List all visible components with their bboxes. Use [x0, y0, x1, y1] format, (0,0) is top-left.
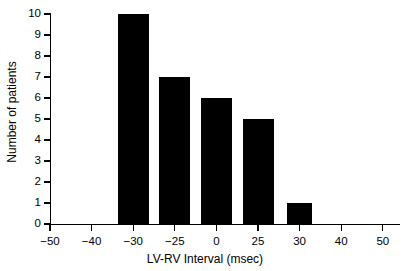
x-axis-title: LV-RV Interval (msec) — [0, 252, 410, 266]
bar — [159, 77, 190, 224]
x-tick-mark — [382, 225, 383, 231]
bar — [201, 98, 232, 224]
y-axis-title: Number of patients — [5, 37, 19, 187]
bar — [287, 203, 312, 224]
x-tick-mark — [49, 225, 50, 231]
x-tick-label: 40 — [335, 235, 348, 247]
bar — [243, 119, 274, 224]
x-tick-mark — [341, 225, 342, 231]
x-tick-label: −50 — [40, 235, 60, 247]
bar-chart-figure: Number of patients 012345678910 −50−40−3… — [0, 0, 410, 271]
x-tick-mark — [216, 225, 217, 231]
x-tick-mark — [174, 225, 175, 231]
x-tick-mark — [299, 225, 300, 231]
y-tick-label: 7 — [18, 71, 41, 83]
x-tick-mark — [257, 225, 258, 231]
y-tick-label: 9 — [18, 29, 41, 41]
x-tick-label: 50 — [376, 235, 389, 247]
bar — [118, 14, 149, 224]
y-tick-label: 1 — [18, 197, 41, 209]
x-tick-label: −25 — [165, 235, 185, 247]
plot-area — [50, 14, 400, 224]
y-tick-label: 10 — [18, 8, 41, 20]
x-tick-mark — [91, 225, 92, 231]
y-tick-label: 0 — [18, 218, 41, 230]
x-tick-label: 25 — [252, 235, 265, 247]
y-tick-label: 2 — [18, 176, 41, 188]
y-tick-label: 6 — [18, 92, 41, 104]
y-tick-label: 4 — [18, 134, 41, 146]
x-tick-mark — [133, 225, 134, 231]
y-tick-label: 5 — [18, 113, 41, 125]
y-tick-label: 8 — [18, 50, 41, 62]
x-tick-label: −40 — [82, 235, 102, 247]
x-tick-label: 30 — [293, 235, 306, 247]
x-tick-label: 0 — [213, 235, 219, 247]
x-tick-label: −30 — [123, 235, 143, 247]
y-tick-label: 3 — [18, 155, 41, 167]
